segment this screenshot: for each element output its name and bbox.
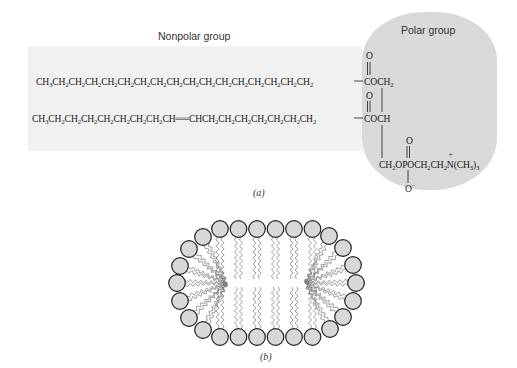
polar-head-circle — [345, 257, 362, 274]
polar-head-circle — [267, 329, 284, 346]
polar-head-circle — [322, 321, 339, 338]
panel-b-caption: (b) — [260, 351, 272, 362]
polar-head-circle — [345, 293, 362, 310]
polar-head-circle — [249, 221, 266, 238]
polar-head-circle — [230, 221, 247, 238]
polar-head-circle — [321, 228, 338, 245]
polar-head-circle — [169, 275, 186, 292]
polar-head-circle — [304, 329, 321, 346]
polar-head-circle — [348, 275, 365, 292]
polar-head-circle — [335, 309, 352, 326]
polar-head-circle — [195, 322, 212, 339]
polar-head-circle — [195, 229, 212, 246]
polar-head-circle — [249, 329, 266, 346]
polar-head-circle — [172, 293, 189, 310]
polar-head-circle — [212, 221, 229, 238]
polar-head-circle — [286, 329, 303, 346]
polar-head-circle — [212, 329, 229, 346]
polar-head-circle — [304, 221, 321, 238]
polar-head-circle — [181, 241, 198, 258]
polar-head-circle — [172, 258, 189, 275]
polar-head-circle — [181, 310, 198, 327]
polar-head-circle — [230, 329, 247, 346]
polar-head-circle — [267, 221, 284, 238]
lipid-vesicle-diagram — [0, 0, 517, 368]
polar-head-circle — [335, 240, 352, 257]
polar-head-circle — [286, 221, 303, 238]
